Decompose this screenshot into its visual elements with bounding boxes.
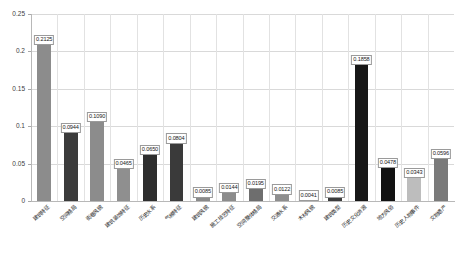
bar-chart: 00.050.10.150.20.25 0.21250.09440.10900.…	[0, 0, 463, 253]
x-axis-tick-label: 历史文化资源	[342, 205, 368, 229]
bar[interactable]: 0.0144	[222, 190, 236, 201]
bar[interactable]: 0.0343	[407, 175, 421, 201]
x-axis-tick-label: 空间格局	[59, 205, 77, 222]
bar-value-label: 0.1090	[87, 112, 107, 122]
bar[interactable]: 0.0650	[143, 152, 157, 201]
bar[interactable]: 0.0596	[434, 156, 448, 201]
x-axis-tick-label: 建筑风貌	[191, 205, 209, 222]
x-axis-line	[31, 201, 455, 202]
bar[interactable]: 0.0944	[64, 130, 78, 201]
bar-value-label: 0.0944	[61, 123, 81, 133]
bar-value-label: 0.0478	[378, 158, 398, 168]
bars-layer: 0.21250.09440.10900.04650.06500.08040.00…	[31, 14, 454, 201]
bar-value-label: 0.2125	[34, 35, 54, 45]
x-axis-tick-label: 建筑装饰特征	[104, 205, 130, 229]
bar-value-label: 0.0465	[113, 159, 133, 169]
x-axis-tick-label: 地方风俗	[376, 205, 394, 222]
x-axis-tick-label: 文物遗产	[429, 205, 447, 222]
x-axis-tick-label: 空间整体格局	[236, 205, 262, 229]
y-axis-tick-label: 0	[21, 198, 25, 205]
x-axis-tick-label: 施工技艺特征	[210, 205, 236, 229]
x-axis-category-labels: 建筑特征空间格局街巷风貌建筑装饰特征历史水系气候特征建筑风貌施工技艺特征空间整体…	[31, 203, 454, 253]
x-axis-tick-label: 建筑类型	[323, 205, 341, 222]
x-axis-tick-label: 历史水系	[138, 205, 156, 222]
bar[interactable]: 0.0195	[249, 186, 263, 201]
bar[interactable]: 0.0085	[328, 195, 342, 201]
bar[interactable]: 0.2125	[37, 42, 51, 201]
bar[interactable]: 0.1858	[355, 62, 369, 201]
bar-value-label: 0.0804	[166, 133, 186, 143]
bar-value-label: 0.0041	[298, 190, 318, 200]
bar[interactable]: 0.0465	[117, 166, 131, 201]
bar-value-label: 0.0596	[431, 149, 451, 159]
bar-value-label: 0.0085	[193, 187, 213, 197]
bar-value-label: 0.0650	[140, 145, 160, 155]
bar[interactable]: 0.0122	[275, 192, 289, 201]
x-axis-tick-label: 交通水系	[270, 205, 288, 222]
y-axis-tick-label: 0.1	[16, 123, 25, 130]
y-axis-tick-label: 0.15	[12, 86, 25, 93]
bar[interactable]: 0.0804	[170, 141, 184, 201]
x-axis-tick-label: 历史人物事件	[395, 205, 421, 229]
bar[interactable]: 0.0478	[381, 165, 395, 201]
bar[interactable]: 0.1090	[90, 119, 104, 201]
x-axis-tick-label: 气候特征	[165, 205, 183, 222]
bar[interactable]: 0.0085	[196, 195, 210, 201]
y-axis-tick-label: 0.25	[12, 11, 25, 18]
x-axis-tick-label: 街巷风貌	[85, 205, 103, 222]
bar-value-label: 0.0085	[325, 187, 345, 197]
bar[interactable]: 0.0041	[302, 198, 316, 201]
y-axis-tick-label: 0.2	[16, 48, 25, 55]
x-axis-tick-label: 建筑特征	[32, 205, 50, 222]
bar-value-label: 0.0122	[272, 184, 292, 194]
bar-value-label: 0.0195	[246, 179, 266, 189]
bar-value-label: 0.0343	[404, 168, 424, 178]
x-axis-tick-label: 木材风貌	[297, 205, 315, 222]
bar-value-label: 0.1858	[351, 55, 371, 65]
bar-value-label: 0.0144	[219, 183, 239, 193]
y-axis-tick-label: 0.05	[12, 160, 25, 167]
